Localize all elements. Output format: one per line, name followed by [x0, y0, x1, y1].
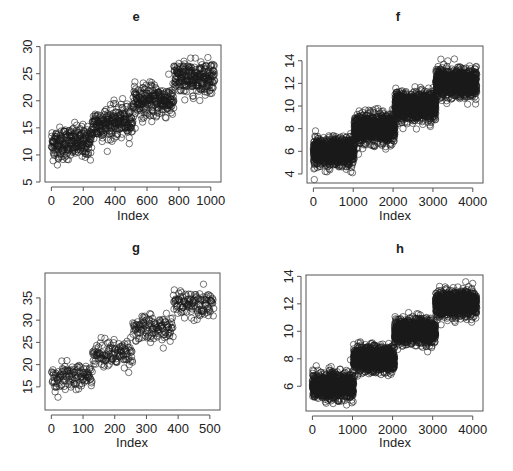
- data-point: [210, 313, 216, 319]
- panel-title: e: [132, 9, 139, 24]
- data-point: [132, 79, 138, 85]
- y-tick-label: 8: [282, 125, 297, 132]
- y-tick-label: 10: [282, 99, 297, 113]
- panel-f: f Index 01000200030004000468101214: [282, 9, 487, 223]
- y-tick-label: 5: [20, 178, 35, 185]
- y-axis: 51015202530: [20, 39, 40, 185]
- data-point: [200, 281, 206, 287]
- x-axis-label: Index: [117, 208, 149, 223]
- x-axis: 01000200030004000: [309, 416, 487, 437]
- y-tick-label: 15: [20, 121, 35, 135]
- x-tick-label: 200: [104, 421, 126, 436]
- data-point: [311, 176, 317, 182]
- y-tick-label: 20: [20, 94, 35, 108]
- y-tick-label: 20: [20, 357, 35, 371]
- x-tick-label: 2000: [378, 422, 407, 437]
- x-tick-label: 2000: [379, 194, 408, 209]
- x-tick-label: 500: [199, 421, 221, 436]
- data-point: [102, 335, 108, 341]
- data-point: [463, 279, 469, 285]
- y-axis: 68101214: [281, 269, 301, 390]
- data-points: [310, 56, 480, 183]
- data-point: [413, 126, 419, 132]
- x-tick-label: 200: [72, 193, 94, 208]
- data-point: [104, 148, 110, 154]
- y-tick-label: 6: [281, 383, 296, 390]
- panel-g: g Index 01002003004005001520253035: [20, 240, 221, 450]
- data-point: [350, 398, 356, 404]
- x-tick-label: 0: [48, 421, 55, 436]
- x-tick-label: 600: [136, 193, 158, 208]
- x-tick-label: 800: [168, 193, 190, 208]
- x-tick-label: 100: [72, 421, 94, 436]
- y-tick-label: 10: [20, 148, 35, 162]
- x-tick-label: 0: [309, 422, 316, 437]
- y-tick-label: 14: [281, 269, 296, 283]
- x-tick-label: 400: [167, 421, 189, 436]
- data-point: [205, 54, 211, 60]
- x-axis: 01000200030004000: [310, 188, 487, 209]
- data-point: [87, 157, 93, 163]
- x-tick-label: 1000: [339, 194, 368, 209]
- x-tick-label: 1000: [196, 193, 225, 208]
- figure-canvas: e Index 0200400600800100051015202530 f I…: [0, 0, 513, 471]
- y-tick-label: 25: [20, 66, 35, 80]
- y-tick-label: 8: [281, 355, 296, 362]
- y-tick-label: 10: [281, 324, 296, 338]
- data-points: [49, 281, 217, 400]
- data-point: [313, 363, 319, 369]
- data-point: [451, 56, 457, 62]
- y-tick-label: 30: [20, 313, 35, 327]
- panel-e: e Index 0200400600800100051015202530: [20, 9, 225, 223]
- y-tick-label: 14: [282, 53, 297, 67]
- x-tick-label: 400: [104, 193, 126, 208]
- x-tick-label: 300: [136, 421, 158, 436]
- figure: e Index 0200400600800100051015202530 f I…: [0, 0, 513, 471]
- data-point: [119, 95, 125, 101]
- data-point: [105, 363, 111, 369]
- panel-title: g: [132, 240, 140, 255]
- x-tick-label: 4000: [458, 422, 487, 437]
- y-tick-label: 15: [20, 380, 35, 394]
- y-tick-label: 30: [20, 39, 35, 53]
- data-point: [166, 71, 172, 77]
- x-axis: 0100200300400500: [48, 415, 221, 436]
- panel-title: f: [396, 9, 401, 24]
- y-tick-label: 6: [282, 148, 297, 155]
- data-point: [182, 97, 188, 103]
- data-point: [55, 394, 61, 400]
- data-point: [163, 310, 169, 316]
- y-tick-label: 12: [282, 76, 297, 90]
- x-tick-label: 3000: [418, 194, 447, 209]
- y-tick-label: 4: [282, 170, 297, 177]
- data-point: [197, 97, 203, 103]
- x-axis-label: Index: [379, 208, 411, 223]
- panel-h: h Index 0100020003000400068101214: [281, 241, 487, 450]
- x-axis: 02004006008001000: [48, 187, 225, 208]
- x-tick-label: 1000: [338, 422, 367, 437]
- y-tick-label: 12: [281, 297, 296, 311]
- x-axis-label: Index: [379, 435, 411, 450]
- data-points: [309, 279, 480, 409]
- x-axis-label: Index: [116, 435, 148, 450]
- data-point: [464, 101, 470, 107]
- x-tick-label: 0: [48, 193, 55, 208]
- x-tick-label: 4000: [458, 194, 487, 209]
- data-points: [48, 54, 218, 168]
- x-tick-label: 0: [310, 194, 317, 209]
- data-point: [54, 162, 60, 168]
- data-point: [181, 315, 187, 321]
- y-axis: 1520253035: [20, 291, 40, 394]
- y-axis: 468101214: [282, 53, 302, 177]
- data-point: [192, 55, 198, 61]
- data-point: [160, 345, 166, 351]
- y-tick-label: 25: [20, 335, 35, 349]
- x-tick-label: 3000: [418, 422, 447, 437]
- panel-title: h: [396, 241, 404, 256]
- data-point: [126, 369, 132, 375]
- data-point: [126, 141, 132, 147]
- y-tick-label: 35: [20, 291, 35, 305]
